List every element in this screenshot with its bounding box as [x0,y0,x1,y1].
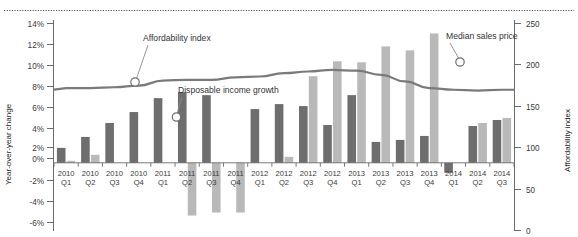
x-axis-label-quarter: Q3 [400,178,410,187]
annotation-label: Median sales price [446,31,518,41]
bar-2010-Q3-median-sales-price [105,123,114,163]
right-axis-title: Affordability index [563,109,572,172]
x-axis-label-quarter: Q4 [231,178,241,187]
bar-2011-Q3-median-sales-price [202,95,211,163]
bar-2010-Q2-disposable-income-growth [91,155,100,163]
x-axis-label-quarter: Q2 [279,178,289,187]
left-tick-label: 8% [32,83,44,92]
bar-2012-Q1-median-sales-price [251,109,260,163]
bar-2012-Q2-median-sales-price [275,104,284,163]
bar-2012-Q3-disposable-income-growth [309,76,318,163]
x-axis-label-year: 2013 [372,169,389,178]
x-axis-label-year: 2014 [493,169,510,178]
plot-area: 2010Q12010Q22010Q32010Q42011Q12011Q22011… [54,33,514,215]
annotation-label: Disposable income growth [178,85,279,95]
annotation-disposable-income-growth: Disposable income growth [172,85,279,121]
x-axis-label-year: 2013 [397,169,414,178]
x-axis-label-year: 2014 [469,169,486,178]
bar-2012-Q4-median-sales-price [323,125,332,163]
disposable-income-marker [172,113,180,121]
left-tick-label: -4% [29,198,44,207]
bar-2011-Q2-median-sales-price [178,92,187,163]
bar-2014-Q3-disposable-income-growth [502,118,511,163]
x-axis-label-quarter: Q2 [376,178,386,187]
bar-2013-Q1-median-sales-price [347,95,356,163]
x-axis-label-year: 2011 [227,169,243,178]
x-axis-label-year: 2014 [445,169,462,178]
left-tick-label: 2% [32,144,44,153]
x-axis-label-year: 2011 [155,169,171,178]
x-axis-label-year: 2012 [324,169,341,178]
x-axis-label-year: 2012 [300,169,317,178]
bar-2010-Q4-median-sales-price [130,112,139,163]
x-axis-label-quarter: Q1 [158,178,168,187]
left-axis-title: Year-over-year change [4,103,13,185]
bar-2013-Q3-disposable-income-growth [406,50,415,162]
chart-figure: 14% 12% 10% 8% 6% 4% 2% 0% -2% -4% -6% Y… [0,0,578,237]
left-tick-label: 10% [28,62,44,71]
left-axis-ticks [47,24,54,223]
x-axis-label-year: 2010 [106,169,123,178]
affordability-index-marker [131,78,139,86]
left-tick-label: 0% [32,155,44,164]
bar-2013-Q2-disposable-income-growth [381,46,390,162]
left-axis: 14% 12% 10% 8% 6% 4% 2% 0% -2% -4% -6% Y… [4,20,54,232]
bar-2013-Q1-disposable-income-growth [357,62,366,163]
x-axis-label-quarter: Q1 [255,178,265,187]
x-axis-label-year: 2013 [348,169,365,178]
bar-2010-Q1-median-sales-price [57,148,66,163]
bar-2013-Q4-disposable-income-growth [430,33,439,162]
x-axis-label-quarter: Q4 [134,178,144,187]
x-axis-label-quarter: Q2 [182,178,192,187]
bar-2012-Q4-disposable-income-growth [333,61,342,162]
bar-2014-Q2-disposable-income-growth [478,123,487,163]
left-tick-label: -2% [29,177,44,186]
right-tick-label: 50 [526,186,536,195]
right-tick-label: 200 [526,61,540,70]
x-axis-label-year: 2011 [203,169,219,178]
x-axis-label-quarter: Q2 [85,178,95,187]
bar-2010-Q2-median-sales-price [81,137,90,163]
bar-2013-Q2-median-sales-price [372,142,381,163]
left-tick-label: 6% [32,104,44,113]
x-axis-label-quarter: Q1 [61,178,71,187]
right-axis: 250 200 150 100 50 0 Affordability index [515,20,573,236]
affordability-index-line [54,70,514,91]
bar-2014-Q2-median-sales-price [468,126,477,163]
left-tick-label: -6% [29,219,44,228]
x-axis-label-year: 2010 [82,169,99,178]
x-axis-label-quarter: Q1 [448,178,458,187]
x-axis-label-quarter: Q3 [109,178,119,187]
right-tick-label: 100 [526,144,540,153]
x-axis-label-year: 2013 [421,169,438,178]
x-axis-label-year: 2010 [130,169,147,178]
bar-2013-Q3-median-sales-price [396,140,405,163]
left-tick-label: 4% [32,125,44,134]
x-axis-label-quarter: Q1 [352,178,362,187]
x-axis-label-quarter: Q3 [206,178,216,187]
right-axis-ticks [515,24,522,231]
right-tick-label: 0 [526,227,531,236]
x-axis-label-year: 2012 [276,169,293,178]
x-axis-label-quarter: Q4 [424,178,434,187]
right-tick-label: 150 [526,103,540,112]
median-sales-price-marker [456,58,464,66]
x-axis-label-quarter: Q2 [473,178,483,187]
annotation-label: Affordability index [143,33,211,43]
bar-2014-Q3-median-sales-price [493,120,502,163]
x-axis-label-quarter: Q3 [497,178,507,187]
left-tick-label: 14% [28,20,44,29]
x-axis-label-year: 2011 [179,169,195,178]
annotation-affordability-index: Affordability index [131,33,212,86]
x-axis-label-quarter: Q4 [327,178,337,187]
x-axis-label-year: 2012 [251,169,268,178]
annotation-median-sales-price: Median sales price [446,31,518,66]
left-tick-label: 12% [28,41,44,50]
bar-2011-Q1-median-sales-price [154,98,163,163]
right-tick-label: 250 [526,20,540,29]
bar-2013-Q4-median-sales-price [420,136,429,163]
bar-2012-Q3-median-sales-price [299,106,308,163]
x-axis-label-quarter: Q3 [303,178,313,187]
x-axis-label-year: 2010 [58,169,75,178]
bar-2012-Q2-disposable-income-growth [285,157,294,163]
